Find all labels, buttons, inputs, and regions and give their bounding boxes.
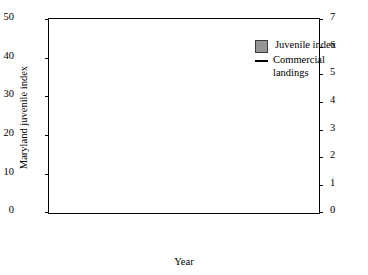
chart-figure: Maryland juvenile index Commercial landi…	[0, 0, 368, 275]
y-tick-right	[319, 185, 323, 186]
y-tick-label-left: 10	[0, 166, 14, 177]
y-tick-label-right: 4	[330, 94, 360, 105]
legend-swatch-icon	[255, 40, 268, 53]
legend-label-line2: landings	[273, 67, 309, 78]
y-tick-label-left: 30	[0, 88, 14, 99]
y-tick-label-right: 2	[330, 149, 360, 160]
y-tick-right	[319, 19, 323, 20]
y-tick-label-left: 50	[0, 11, 14, 22]
y-axis-left-title: Maryland juvenile index	[18, 33, 29, 203]
legend-line-icon	[255, 60, 268, 62]
y-tick-label-right: 6	[330, 39, 360, 50]
plot-area: Juvenile index Commercial landings	[48, 18, 320, 214]
legend-label-line1: Commercial	[273, 54, 325, 65]
y-tick-left	[45, 212, 49, 213]
y-tick-label-right: 5	[330, 66, 360, 77]
y-tick-label-right: 3	[330, 122, 360, 133]
y-tick-label-left: 0	[0, 204, 14, 215]
y-tick-label-right: 7	[330, 11, 360, 22]
y-tick-label-left: 40	[0, 50, 14, 61]
y-tick-label-right: 1	[330, 177, 360, 188]
y-tick-right	[319, 157, 323, 158]
legend-label-juvenile-index: Juvenile index	[275, 39, 336, 52]
y-tick-label-right: 0	[330, 204, 360, 215]
y-tick-right	[319, 212, 323, 213]
y-tick-right	[319, 130, 323, 131]
x-axis-title: Year	[0, 256, 368, 267]
y-tick-right	[319, 102, 323, 103]
y-tick-label-left: 20	[0, 127, 14, 138]
